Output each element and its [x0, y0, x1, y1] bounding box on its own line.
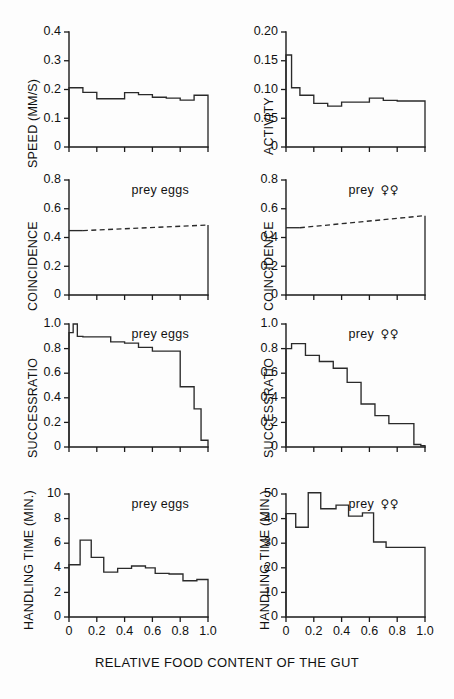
- ytick-label: 8: [54, 511, 61, 525]
- ytick-label: 0.8: [44, 172, 61, 186]
- ytick-label: 0.8: [261, 172, 278, 186]
- xtick-label: 0.6: [361, 624, 378, 638]
- panel-successratio-eggs: SUCCESSRATIO 00.20.40.60.81.0prey eggs: [0, 312, 227, 462]
- xtick-label: 0: [66, 624, 73, 638]
- venus-symbol-pair-icon: ♀♀: [381, 497, 400, 511]
- panel-activity-females: ACTIVITY 00.050.100.150.20: [227, 20, 454, 170]
- ytick-label: 0.1: [44, 111, 61, 125]
- ytick-label: 0: [54, 139, 61, 153]
- page-artifact: [195, 0, 265, 12]
- ytick-label: 0.2: [44, 259, 61, 273]
- ytick-label: 0.6: [261, 201, 278, 215]
- data-step-line: [286, 344, 425, 447]
- figure-root: SPEED (MM/S) 00.10.20.30.4 ACTIVITY 00.0…: [0, 0, 454, 699]
- ytick-label: 0.4: [44, 390, 61, 404]
- xtick-label: 0.4: [333, 624, 350, 638]
- ytick-label: 0: [54, 609, 61, 623]
- xtick-label: 0.2: [305, 624, 322, 638]
- panel-handlingtime-eggs: HANDLING TIME (MIN.) 024681000.20.40.60.…: [0, 482, 227, 632]
- ytick-label: 0.2: [44, 82, 61, 96]
- data-dashed-trend-line: [83, 225, 208, 231]
- xtick-label: 0.8: [172, 624, 189, 638]
- panel-note: prey: [349, 183, 375, 197]
- ylabel-handlingtime-females: HANDLING TIME (MIN.): [258, 490, 272, 630]
- ytick-label: 0.8: [44, 341, 61, 355]
- xtick-label: 0.6: [144, 624, 161, 638]
- ylabel-successratio-females: SUCCESSRATIO: [262, 358, 276, 458]
- ytick-label: 4: [54, 560, 61, 574]
- panel-coincidence-females: COINCIDENCE 00.20.40.60.8prey♀♀: [227, 168, 454, 318]
- ylabel-successratio-eggs: SUCCESSRATIO: [26, 358, 40, 458]
- ytick-label: 0: [54, 439, 61, 453]
- panel-note: prey eggs: [132, 183, 190, 197]
- ytick-label: 2: [54, 585, 61, 599]
- ytick-label: 0: [54, 287, 61, 301]
- ylabel-speed: SPEED (MM/S): [26, 79, 40, 168]
- ylabel-handlingtime-eggs: HANDLING TIME (MIN.): [22, 490, 36, 630]
- panel-note: prey eggs: [132, 497, 190, 511]
- xtick-label: 1.0: [199, 624, 216, 638]
- panel-note: prey: [349, 497, 375, 511]
- data-step-line: [286, 55, 425, 147]
- panel-note: prey eggs: [132, 327, 190, 341]
- ytick-label: 0.8: [261, 341, 278, 355]
- panel-note: prey: [349, 327, 375, 341]
- xtick-label: 1.0: [416, 624, 433, 638]
- ytick-label: 0.3: [44, 53, 61, 67]
- xaxis-title: RELATIVE FOOD CONTENT OF THE GUT: [0, 655, 454, 670]
- ylabel-activity: ACTIVITY: [262, 97, 276, 155]
- xtick-label: 0.4: [116, 624, 133, 638]
- panel-successratio-females: SUCCESSRATIO 00.20.40.60.81.0prey♀♀: [227, 312, 454, 462]
- ytick-label: 0.10: [254, 82, 278, 96]
- ytick-label: 0: [271, 609, 278, 623]
- data-step-line: [69, 88, 208, 147]
- ytick-label: 1.0: [44, 316, 61, 330]
- data-step-line: [69, 324, 208, 447]
- xtick-label: 0: [283, 624, 290, 638]
- ytick-label: 0.20: [254, 24, 278, 38]
- ylabel-coincidence-eggs: COINCIDENCE: [26, 221, 40, 311]
- ytick-label: 0.2: [44, 415, 61, 429]
- xtick-label: 0.2: [88, 624, 105, 638]
- xtick-label: 0.8: [389, 624, 406, 638]
- ytick-label: 10: [47, 486, 61, 500]
- ytick-label: 0.6: [44, 201, 61, 215]
- ytick-label: 0.4: [44, 24, 61, 38]
- panel-handlingtime-females: HANDLING TIME (MIN.) 0102030405000.20.40…: [227, 482, 454, 632]
- data-step-line: [286, 493, 425, 617]
- data-dashed-trend-line: [300, 216, 425, 228]
- ytick-label: 0.4: [44, 230, 61, 244]
- venus-symbol-pair-icon: ♀♀: [381, 183, 400, 197]
- panel-speed-eggs: SPEED (MM/S) 00.10.20.30.4: [0, 20, 227, 170]
- ytick-label: 1.0: [261, 316, 278, 330]
- data-step-line: [69, 540, 208, 617]
- ytick-label: 0.15: [254, 53, 278, 67]
- panel-coincidence-eggs: COINCIDENCE 00.20.40.60.8prey eggs: [0, 168, 227, 318]
- ylabel-coincidence-females: COINCIDENCE: [262, 221, 276, 311]
- ytick-label: 0.6: [44, 365, 61, 379]
- venus-symbol-pair-icon: ♀♀: [381, 327, 400, 341]
- ytick-label: 6: [54, 535, 61, 549]
